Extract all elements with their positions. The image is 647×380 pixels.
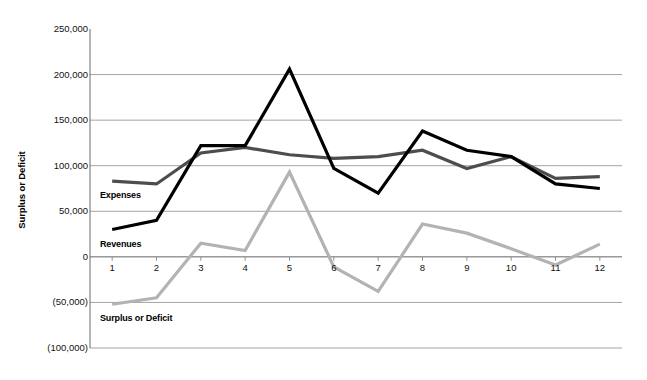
y-tick-label: 100,000: [22, 161, 88, 171]
series-line-surplus-or-deficit: [112, 172, 600, 304]
chart-container: Surplus or Deficit 250,000200,000150,000…: [0, 0, 647, 380]
x-tick-label: 8: [411, 262, 435, 273]
series-label-expenses: Expenses: [100, 190, 141, 200]
x-tick-label: 1: [100, 262, 124, 273]
gridlines: [90, 75, 622, 348]
series-label-surplus-or-deficit: Surplus or Deficit: [100, 313, 172, 323]
series-label-revenues: Revenues: [100, 239, 141, 249]
x-tick-label: 12: [588, 262, 612, 273]
chart-plot-area: [0, 0, 647, 380]
y-tick-label: 200,000: [22, 70, 88, 80]
x-tick-label: 3: [189, 262, 213, 273]
x-tick-label: 2: [145, 262, 169, 273]
y-tick-label: 0: [22, 252, 88, 262]
y-tick-label: 250,000: [22, 24, 88, 34]
x-tick-label: 11: [544, 262, 568, 273]
x-tick-label: 6: [322, 262, 346, 273]
y-axis-tick-labels: 250,000200,000150,000100,00050,0000(50,0…: [22, 0, 88, 380]
series-line-revenues: [112, 69, 600, 229]
x-tick-label: 10: [499, 262, 523, 273]
x-tick-label: 5: [278, 262, 302, 273]
y-tick-label: 150,000: [22, 115, 88, 125]
x-tick-label: 4: [233, 262, 257, 273]
y-tick-label: (50,000): [22, 297, 88, 307]
x-tick-label: 7: [366, 262, 390, 273]
data-series-group: [112, 69, 600, 304]
y-tick-label: 50,000: [22, 206, 88, 216]
y-tick-label: (100,000): [22, 343, 88, 353]
x-tick-label: 9: [455, 262, 479, 273]
